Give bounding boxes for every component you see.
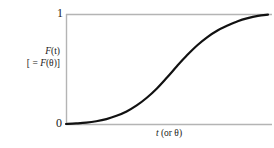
y-axis-label-line-2: [ = F(θ)] [0,58,60,70]
y-axis-label-line-2-argument: (θ) [46,58,57,68]
x-axis-label-rest: (or θ) [159,128,183,138]
y-axis-label: F(t) [ = F(θ)] [0,46,60,69]
y-axis-label-line-2-suffix: ] [57,58,60,68]
y-tick-label-0: 0 [52,117,62,129]
y-axis-label-line-2-prefix: [ = [27,58,40,68]
y-axis-label-line-1-argument: (t) [51,46,60,56]
cdf-curve [66,15,268,124]
plot-area [0,0,274,148]
cdf-figure: 1 0 F(t) [ = F(θ)] t (or θ) [0,0,274,148]
y-tick-label-1: 1 [53,7,63,19]
x-axis-label: t (or θ) [66,129,272,139]
y-axis-label-line-1: F(t) [0,46,60,58]
